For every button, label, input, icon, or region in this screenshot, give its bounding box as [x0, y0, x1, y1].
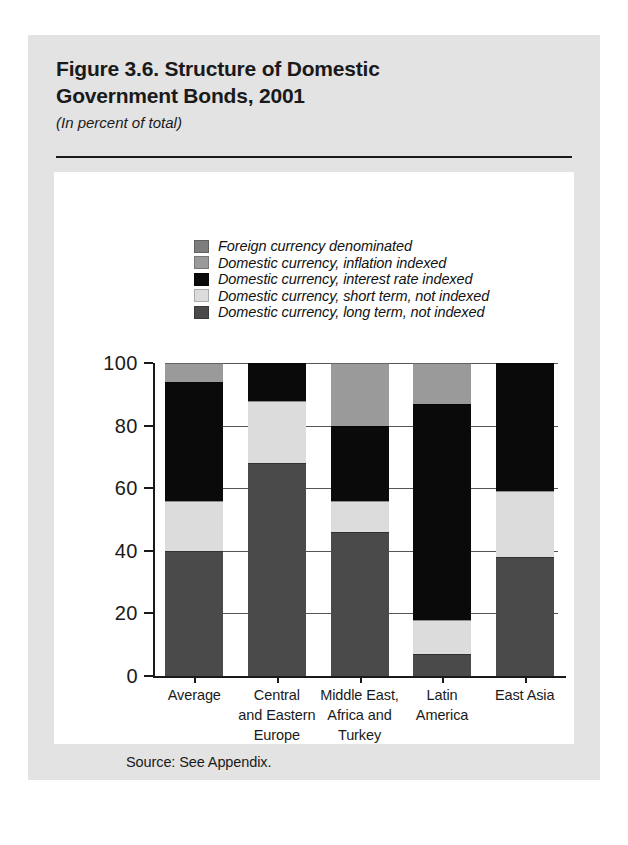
- x-axis-category-label: East Asia: [465, 685, 585, 705]
- y-axis-tick: [144, 612, 153, 614]
- x-axis-category-label-line: East Asia: [465, 685, 585, 705]
- bar-east-asia[interactable]: [496, 363, 554, 676]
- bar-segment-long_term_not_indexed[interactable]: [413, 654, 471, 676]
- bar-segment-long_term_not_indexed[interactable]: [331, 532, 389, 676]
- figure-title-line-1: Figure 3.6. Structure of Domestic: [56, 55, 568, 82]
- bar-segment-interest_rate_indexed[interactable]: [165, 382, 223, 501]
- legend-item: Foreign currency denominated: [194, 238, 489, 255]
- bar-latin-america[interactable]: [413, 363, 471, 676]
- bar-segment-short_term_not_indexed[interactable]: [165, 501, 223, 551]
- y-axis-line: [153, 363, 155, 678]
- x-axis-tick: [360, 676, 362, 683]
- bar-segment-long_term_not_indexed[interactable]: [496, 557, 554, 676]
- bar-segment-long_term_not_indexed[interactable]: [165, 551, 223, 676]
- bar-segment-interest_rate_indexed[interactable]: [331, 426, 389, 501]
- y-axis-tick-label: 20: [115, 602, 138, 625]
- legend-label: Domestic currency, short term, not index…: [218, 288, 489, 304]
- bar-segment-short_term_not_indexed[interactable]: [248, 401, 306, 464]
- figure-card: Figure 3.6. Structure of Domestic Govern…: [28, 35, 600, 780]
- x-axis-tick: [442, 676, 444, 683]
- chart-legend: Foreign currency denominatedDomestic cur…: [194, 238, 489, 321]
- legend-item: Domestic currency, interest rate indexed: [194, 271, 489, 288]
- bar-segment-interest_rate_indexed[interactable]: [496, 363, 554, 491]
- figure-subtitle: (In percent of total): [56, 114, 568, 132]
- y-axis-tick: [144, 550, 153, 552]
- legend-swatch-icon: [194, 256, 209, 269]
- bar-segment-interest_rate_indexed[interactable]: [413, 404, 471, 620]
- source-note: Source: See Appendix.: [126, 754, 271, 770]
- y-axis-tick-label: 100: [103, 352, 138, 375]
- chart-panel: Foreign currency denominatedDomestic cur…: [54, 172, 574, 744]
- bar-central-and-eastern-europe[interactable]: [248, 363, 306, 676]
- bar-segment-inflation_indexed[interactable]: [331, 363, 389, 426]
- bar-average[interactable]: [165, 363, 223, 676]
- y-axis-tick: [144, 487, 153, 489]
- x-axis-category-label-line: America: [382, 705, 502, 725]
- legend-label: Domestic currency, long term, not indexe…: [218, 304, 484, 320]
- legend-swatch-icon: [194, 240, 209, 253]
- y-axis-tick-label: 40: [115, 539, 138, 562]
- y-axis-tick: [144, 675, 153, 677]
- legend-item: Domestic currency, long term, not indexe…: [194, 304, 489, 321]
- x-axis-tick: [277, 676, 279, 683]
- y-axis-tick: [144, 362, 153, 364]
- y-axis-tick: [144, 425, 153, 427]
- legend-item: Domestic currency, short term, not index…: [194, 288, 489, 305]
- bar-segment-long_term_not_indexed[interactable]: [248, 463, 306, 676]
- bar-segment-short_term_not_indexed[interactable]: [496, 491, 554, 557]
- figure-header: Figure 3.6. Structure of Domestic Govern…: [56, 55, 568, 132]
- y-axis-tick-label: 60: [115, 477, 138, 500]
- figure-title-line-2: Government Bonds, 2001: [56, 82, 568, 109]
- title-divider: [56, 156, 572, 158]
- legend-item: Domestic currency, inflation indexed: [194, 255, 489, 272]
- bar-segment-inflation_indexed[interactable]: [413, 363, 471, 404]
- x-axis-category-label-line: Turkey: [300, 725, 420, 745]
- y-axis-tick-label: 80: [115, 414, 138, 437]
- bar-middle-east-africa-and-turkey[interactable]: [331, 363, 389, 676]
- plot-area: 020406080100AverageCentraland EasternEur…: [153, 363, 566, 678]
- legend-label: Domestic currency, inflation indexed: [218, 255, 446, 271]
- legend-label: Foreign currency denominated: [218, 238, 412, 254]
- bar-segment-short_term_not_indexed[interactable]: [331, 501, 389, 532]
- bar-segment-interest_rate_indexed[interactable]: [248, 363, 306, 401]
- bar-segment-inflation_indexed[interactable]: [165, 363, 223, 382]
- x-axis-tick: [194, 676, 196, 683]
- legend-swatch-icon: [194, 289, 209, 302]
- legend-swatch-icon: [194, 306, 209, 319]
- x-axis-tick: [525, 676, 527, 683]
- legend-swatch-icon: [194, 273, 209, 286]
- legend-label: Domestic currency, interest rate indexed: [218, 271, 472, 287]
- bar-segment-short_term_not_indexed[interactable]: [413, 620, 471, 654]
